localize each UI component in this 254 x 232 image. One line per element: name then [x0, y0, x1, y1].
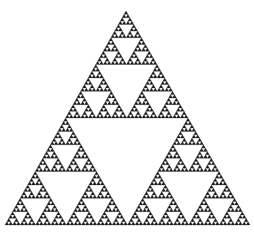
sierpinski-triangle-diagram — [0, 0, 254, 232]
